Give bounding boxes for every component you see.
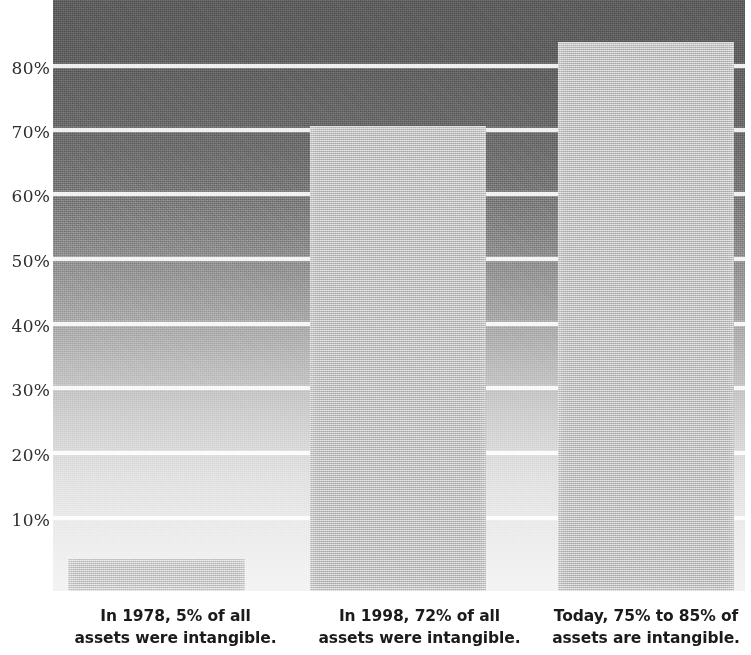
- caption-1998-line1: In 1998, 72% of all: [298, 605, 541, 627]
- y-axis-tick-20: 20%: [0, 445, 50, 465]
- y-axis-tick-30: 30%: [0, 380, 50, 400]
- bar-chart: 80% 70% 60% 50% 40% 30% 20% 10% In 1978,…: [0, 0, 751, 655]
- y-axis-tick-40: 40%: [0, 316, 50, 336]
- bar-1978: [68, 559, 245, 591]
- x-axis-captions: In 1978, 5% of all assets were intangibl…: [53, 596, 751, 655]
- y-axis: 80% 70% 60% 50% 40% 30% 20% 10%: [0, 0, 50, 591]
- y-axis-tick-60: 60%: [0, 186, 50, 206]
- caption-today-line1: Today, 75% to 85% of: [541, 605, 751, 627]
- plot-area: [53, 0, 745, 591]
- caption-today-line2: assets are intangible.: [541, 627, 751, 649]
- y-axis-tick-50: 50%: [0, 251, 50, 271]
- caption-1978-line1: In 1978, 5% of all: [53, 605, 298, 627]
- bar-1998: [310, 126, 486, 591]
- caption-today: Today, 75% to 85% of assets are intangib…: [541, 596, 751, 655]
- bar-today: [558, 42, 734, 591]
- y-axis-tick-70: 70%: [0, 122, 50, 142]
- caption-1978: In 1978, 5% of all assets were intangibl…: [53, 596, 298, 655]
- caption-1978-line2: assets were intangible.: [53, 627, 298, 649]
- y-axis-tick-80: 80%: [0, 58, 50, 78]
- caption-1998-line2: assets were intangible.: [298, 627, 541, 649]
- y-axis-tick-10: 10%: [0, 510, 50, 530]
- caption-1998: In 1998, 72% of all assets were intangib…: [298, 596, 541, 655]
